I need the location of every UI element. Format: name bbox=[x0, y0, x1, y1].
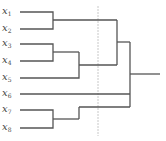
dendrogram-lines bbox=[0, 0, 166, 141]
